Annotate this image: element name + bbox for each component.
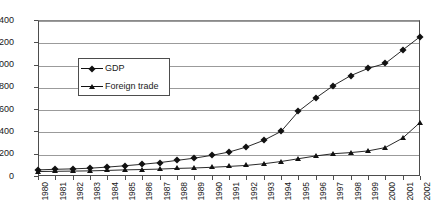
x-axis-tick-label: 1982 xyxy=(76,182,85,201)
x-axis-tick-mark xyxy=(403,176,404,180)
gridline xyxy=(39,43,419,44)
legend-label-foreign-trade: Foreign trade xyxy=(105,82,159,91)
x-axis-tick-label: 1997 xyxy=(336,182,345,201)
y-axis-tick-label: 200 xyxy=(0,149,14,158)
x-axis-tick-label: 1998 xyxy=(354,182,363,201)
x-axis-tick-label: 1984 xyxy=(111,182,120,201)
x-axis-tick-label: 2002 xyxy=(423,182,432,201)
x-axis-tick-mark xyxy=(194,176,195,180)
x-axis-tick-label: 1980 xyxy=(41,182,50,201)
x-axis-tick-mark xyxy=(142,176,143,180)
x-axis-tick-mark xyxy=(368,176,369,180)
x-axis-tick-label: 1994 xyxy=(284,182,293,201)
line-chart: 0200400600800100012001400 19801981198219… xyxy=(0,0,437,224)
x-axis-tick-mark xyxy=(55,176,56,180)
x-axis-tick-mark xyxy=(107,176,108,180)
x-axis-tick-label: 1992 xyxy=(250,182,259,201)
x-axis-tick-mark xyxy=(298,176,299,180)
y-axis-tick-label: 1000 xyxy=(0,60,14,69)
x-axis-tick-label: 1981 xyxy=(59,182,68,201)
x-axis-tick-label: 1991 xyxy=(232,182,241,201)
legend-item-foreign-trade: Foreign trade xyxy=(79,78,169,95)
x-axis-tick-mark xyxy=(246,176,247,180)
x-axis-tick-mark xyxy=(229,176,230,180)
x-axis-tick-mark xyxy=(177,176,178,180)
foreign-trade-marker-icon xyxy=(79,80,105,94)
y-axis-tick-mark xyxy=(34,154,38,155)
y-axis-tick-label: 800 xyxy=(0,82,14,91)
y-axis-tick-mark xyxy=(34,109,38,110)
plot-area xyxy=(38,20,420,176)
legend-item-gdp: GDP xyxy=(79,60,169,77)
x-axis-tick-mark xyxy=(90,176,91,180)
x-axis-tick-mark xyxy=(316,176,317,180)
x-axis-tick-label: 1999 xyxy=(371,182,380,201)
y-axis-tick-label: 1400 xyxy=(0,16,14,25)
gridline xyxy=(39,155,419,156)
x-axis-tick-label: 1987 xyxy=(163,182,172,201)
x-axis-tick-label: 2000 xyxy=(388,182,397,201)
x-axis-tick-mark xyxy=(160,176,161,180)
y-axis-tick-mark xyxy=(34,87,38,88)
x-axis-tick-mark xyxy=(125,176,126,180)
x-axis-tick-label: 2001 xyxy=(406,182,415,201)
x-axis-tick-mark xyxy=(333,176,334,180)
x-axis-tick-mark xyxy=(281,176,282,180)
y-axis-tick-label: 600 xyxy=(0,105,14,114)
x-axis-tick-label: 1983 xyxy=(93,182,102,201)
y-axis-tick-mark xyxy=(34,20,38,21)
x-axis-tick-mark xyxy=(212,176,213,180)
gridline xyxy=(39,132,419,133)
x-axis-tick-mark xyxy=(351,176,352,180)
x-axis-tick-mark xyxy=(73,176,74,180)
y-axis-tick-mark xyxy=(34,131,38,132)
x-axis-tick-label: 1993 xyxy=(267,182,276,201)
x-axis-tick-label: 1989 xyxy=(197,182,206,201)
y-axis-tick-label: 0 xyxy=(0,172,14,181)
x-axis-tick-label: 1988 xyxy=(180,182,189,201)
x-axis-tick-mark xyxy=(264,176,265,180)
x-axis-tick-mark xyxy=(38,176,39,180)
x-axis-tick-label: 1986 xyxy=(145,182,154,201)
x-axis-tick-label: 1995 xyxy=(302,182,311,201)
y-axis-tick-label: 1200 xyxy=(0,38,14,47)
gridline xyxy=(39,21,419,22)
gdp-marker-icon xyxy=(79,62,105,76)
y-axis-tick-label: 400 xyxy=(0,127,14,136)
x-axis-tick-mark xyxy=(385,176,386,180)
x-axis-tick-label: 1996 xyxy=(319,182,328,201)
y-axis-tick-mark xyxy=(34,65,38,66)
gridline xyxy=(39,110,419,111)
y-axis-tick-mark xyxy=(34,42,38,43)
chart-legend: GDP Foreign trade xyxy=(78,58,170,96)
x-axis-tick-label: 1990 xyxy=(215,182,224,201)
x-axis-tick-mark xyxy=(420,176,421,180)
legend-label-gdp: GDP xyxy=(105,64,125,73)
x-axis-tick-label: 1985 xyxy=(128,182,137,201)
